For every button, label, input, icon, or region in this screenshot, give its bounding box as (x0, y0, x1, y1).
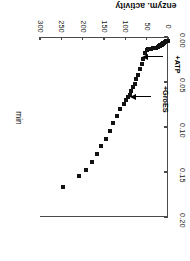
data-point (108, 130, 112, 134)
data-point (99, 144, 103, 148)
annotation-label: +ATP (173, 43, 182, 73)
x-axis-title: min (14, 112, 24, 126)
data-point (95, 152, 99, 156)
data-point (118, 107, 122, 111)
annotation-label: +GroES (160, 83, 169, 113)
data-point (77, 175, 81, 179)
y-tick (165, 216, 169, 217)
data-point (115, 114, 119, 118)
data-point (111, 121, 115, 125)
x-tick-label: 300 (36, 17, 45, 37)
data-point (136, 73, 140, 77)
data-point (84, 168, 88, 172)
x-tick (39, 37, 40, 41)
rotated-chart-canvas: +ATP+GroES 050100150200250300 0.000.050.… (0, 0, 190, 261)
x-tick-label: 100 (121, 17, 130, 37)
x-tick (103, 37, 104, 41)
data-point (134, 77, 138, 81)
y-axis-title: enzym. activity (106, 1, 186, 11)
x-tick-label: 50 (142, 17, 151, 37)
x-tick (61, 37, 62, 41)
annotation-arrow-head (142, 54, 148, 60)
x-tick-label: 250 (57, 17, 66, 37)
y-tick (165, 126, 169, 127)
data-point (122, 102, 126, 106)
x-tick (82, 37, 83, 41)
data-point (138, 67, 142, 71)
y-tick-label: 0.05 (178, 73, 187, 93)
data-point (90, 160, 94, 164)
x-tick (146, 37, 147, 41)
x-tick (125, 37, 126, 41)
data-point (140, 62, 144, 66)
y-tick (165, 171, 169, 172)
x-tick-label: 200 (78, 17, 87, 37)
x-tick-label: 150 (100, 17, 109, 37)
x-tick-label: 0 (164, 17, 173, 37)
data-point (104, 137, 108, 141)
data-point (61, 185, 65, 189)
figure-panel: +ATP+GroES 050100150200250300 0.000.050.… (0, 0, 190, 261)
y-tick-label: 0.15 (178, 163, 187, 183)
axis-frame (40, 37, 168, 217)
y-tick-label: 0.00 (178, 28, 187, 48)
annotation-arrow-line (147, 56, 163, 57)
plot-area: +ATP+GroES (40, 37, 168, 217)
annotation-arrow-line (135, 96, 151, 97)
annotation-arrow-head (130, 94, 136, 100)
y-tick (165, 36, 169, 37)
y-tick-label: 0.20 (178, 208, 187, 228)
y-tick-label: 0.10 (178, 118, 187, 138)
